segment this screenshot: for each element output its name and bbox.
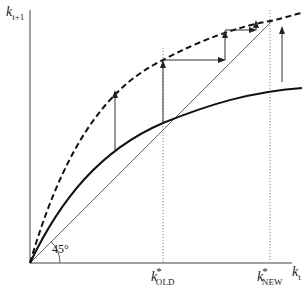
- new-transition-curve: [30, 13, 302, 263]
- convergence-staircase: [163, 24, 256, 123]
- old-transition-curve: [30, 88, 302, 263]
- 45-degree-line: [30, 21, 272, 263]
- y-axis-label: kt+1: [6, 4, 24, 22]
- diagram-canvas: [0, 0, 307, 286]
- angle-label: 45°: [52, 242, 69, 257]
- x-axis-label: kt: [292, 264, 301, 282]
- k-new-label: k*NEW: [257, 265, 283, 286]
- k-old-label: k*OLD: [151, 265, 175, 286]
